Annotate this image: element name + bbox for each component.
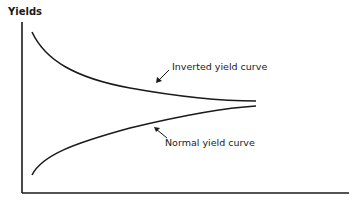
yield-curve-chart: Yields Inverted yield curve Normal yield… <box>0 0 358 206</box>
chart-plot-area <box>0 0 358 206</box>
normal-curve-label: Normal yield curve <box>165 137 255 148</box>
inverted-curve-label: Inverted yield curve <box>172 61 267 72</box>
inverted-arrow-icon <box>156 70 169 83</box>
